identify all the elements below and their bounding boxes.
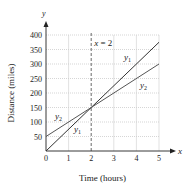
y-tick-label: 200 <box>30 89 42 98</box>
x-tick-label: 0 <box>44 154 48 163</box>
annotation-y2-lower: y2 <box>54 111 62 122</box>
y-tick-label: 50 <box>34 133 42 142</box>
annotation-y1-upper: y1 <box>123 52 131 63</box>
chart: 50100150200250300350400012345yxTime (hou… <box>0 0 191 189</box>
y-axis-arrow-icon <box>44 21 49 27</box>
series-line-y2 <box>46 64 159 137</box>
y-axis-symbol: y <box>41 9 46 18</box>
x-axis-title: Time (hours) <box>79 173 126 183</box>
x-tick-label: 3 <box>112 154 116 163</box>
y-tick-label: 250 <box>30 75 42 84</box>
annotation-x-equals-2: x = 2 <box>93 38 112 48</box>
y-tick-label: 350 <box>30 46 42 55</box>
y-tick-label: 300 <box>30 60 42 69</box>
grid <box>46 31 159 151</box>
x-axis-symbol: x <box>177 146 182 156</box>
y-tick-label: 100 <box>30 118 42 127</box>
x-tick-label: 5 <box>157 154 161 163</box>
x-tick-label: 4 <box>134 154 138 163</box>
annotation-y2-upper: y2 <box>139 80 147 91</box>
x-axis-arrow-icon <box>170 149 176 154</box>
y-tick-label: 150 <box>30 104 42 113</box>
y-tick-label: 400 <box>30 31 42 40</box>
x-tick-label: 1 <box>67 154 71 163</box>
series-line-y1 <box>46 42 159 151</box>
annotation-y1-lower: y1 <box>73 124 81 135</box>
series <box>46 42 159 151</box>
y-axis-title: Distance (miles) <box>6 63 16 122</box>
x-tick-label: 2 <box>89 154 93 163</box>
